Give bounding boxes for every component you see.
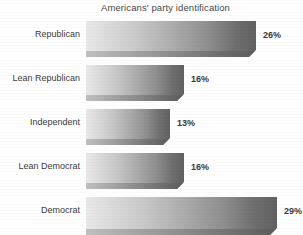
bar-republican <box>86 21 256 57</box>
bar-category-label: Republican <box>0 29 80 39</box>
bar-row: Lean Republican 16% <box>0 61 303 101</box>
bar-fill <box>86 109 170 145</box>
bar-independent <box>86 109 170 145</box>
bar-base-shadow <box>86 51 256 57</box>
bar-value-label: 16% <box>191 74 209 84</box>
bar-chart: Americans' party identification Republic… <box>0 0 303 235</box>
chart-title-text: Americans' party identification <box>73 2 230 13</box>
bar-row: Republican 26% <box>0 17 303 57</box>
bar-category-label: Lean Democrat <box>0 161 80 171</box>
bar-category-label: Democrat <box>0 205 80 215</box>
bar-fill <box>86 197 277 235</box>
chart-title: Americans' party identification <box>0 2 303 13</box>
chart-plot-area: Republican 26% Lean Republican 16% Indep… <box>0 17 303 235</box>
bar-fill <box>86 21 256 57</box>
bar-base-shadow <box>86 229 277 235</box>
bar-lean-democrat <box>86 153 184 189</box>
bar-base-shadow <box>86 139 170 145</box>
bar-democrat <box>86 197 277 235</box>
bar-row: Democrat 29% <box>0 193 303 235</box>
bar-base-shadow <box>86 183 184 189</box>
bar-fill <box>86 65 184 101</box>
bar-value-label: 16% <box>191 162 209 172</box>
bar-value-label: 29% <box>284 206 302 216</box>
bar-row: Lean Democrat 16% <box>0 149 303 189</box>
bar-base-shadow <box>86 95 184 101</box>
bar-category-label: Lean Republican <box>0 73 80 83</box>
bar-category-label: Independent <box>0 117 80 127</box>
bar-row: Independent 13% <box>0 105 303 145</box>
bar-lean-republican <box>86 65 184 101</box>
bar-fill <box>86 153 184 189</box>
bar-value-label: 26% <box>263 30 281 40</box>
bar-value-label: 13% <box>177 118 195 128</box>
